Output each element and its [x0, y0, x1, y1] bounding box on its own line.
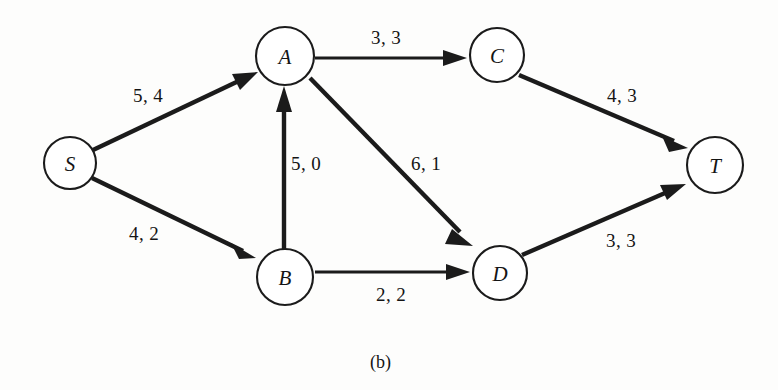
edge-label-B-A: 5, 0	[291, 154, 321, 173]
node-A[interactable]: A	[256, 27, 314, 85]
edge-B-A-arrowhead	[276, 86, 292, 112]
figure-caption: (b)	[370, 352, 391, 373]
node-T-label: T	[709, 154, 722, 178]
edge-S-B	[92, 178, 256, 259]
edge-label-A-C: 3, 3	[371, 28, 401, 47]
node-D-label: D	[491, 262, 507, 286]
edge-S-A-line	[93, 78, 245, 150]
edge-label-S-A: 5, 4	[133, 86, 163, 105]
edge-D-T-line	[522, 190, 672, 255]
node-T[interactable]: T	[687, 137, 743, 193]
node-S[interactable]: S	[44, 137, 96, 189]
node-B-label: B	[279, 266, 292, 290]
edge-label-S-B: 4, 2	[129, 224, 159, 243]
edge-label-A-D: 6, 1	[411, 154, 441, 173]
node-C[interactable]: C	[470, 28, 524, 82]
edge-label-C-T: 4, 3	[607, 86, 637, 105]
edge-B-D	[315, 264, 470, 280]
edge-C-T	[519, 75, 688, 152]
edges-layer	[92, 50, 688, 280]
edge-A-C	[315, 50, 467, 66]
edge-A-C-arrowhead	[443, 50, 467, 66]
edge-D-T	[522, 184, 686, 255]
edge-S-A-arrowhead	[232, 72, 258, 90]
edge-D-T-arrowhead	[660, 184, 686, 200]
node-S-label: S	[65, 152, 76, 176]
edge-S-B-line	[92, 178, 243, 251]
flow-network-graph: S A B C D T	[0, 0, 778, 390]
edge-S-B-arrowhead	[231, 243, 256, 259]
edge-A-D	[310, 78, 473, 246]
network-flow-figure: S A B C D T 5, 4	[0, 0, 778, 390]
edge-label-B-D: 2, 2	[376, 285, 406, 304]
node-A-label: A	[277, 45, 292, 69]
edge-C-T-arrowhead	[662, 136, 688, 152]
node-C-label: C	[490, 44, 505, 68]
edge-B-D-arrowhead	[446, 264, 470, 280]
edge-S-A	[93, 72, 258, 150]
node-B[interactable]: B	[257, 249, 313, 305]
edge-B-A	[276, 86, 292, 249]
edge-C-T-line	[519, 75, 674, 141]
edge-label-D-T: 3, 3	[606, 231, 636, 250]
node-D[interactable]: D	[473, 246, 527, 300]
